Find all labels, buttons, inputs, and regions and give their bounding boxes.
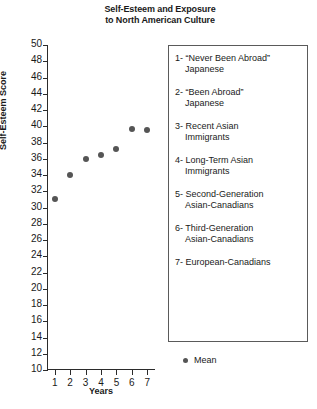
x-tick-mark xyxy=(101,370,102,375)
legend-key: Mean xyxy=(183,355,217,366)
y-tick-mark xyxy=(43,126,48,127)
legend-item: 4- Long-Term AsianImmigrants xyxy=(175,155,307,177)
y-tick-label: 30 xyxy=(31,201,42,213)
scatter-chart-figure: Self-Esteem and Exposure to North Americ… xyxy=(0,0,317,409)
y-tick-mark xyxy=(43,224,48,225)
y-tick-mark xyxy=(43,273,48,274)
y-tick-label: 38 xyxy=(31,136,42,148)
legend-item-line-2: Asian-Canadians xyxy=(175,234,307,245)
y-tick-mark xyxy=(43,78,48,79)
data-point xyxy=(113,146,119,152)
legend-item-line-2: Immigrants xyxy=(175,166,307,177)
y-tick-mark xyxy=(43,159,48,160)
legend-item: 7- European-Canadians xyxy=(175,257,307,268)
y-tick-label: 42 xyxy=(31,103,42,115)
legend-box: 1- “Never Been Abroad”Japanese2- “Been A… xyxy=(168,45,308,342)
y-tick-label: 48 xyxy=(31,54,42,66)
legend-item: 5- Second-GenerationAsian-Canadians xyxy=(175,189,307,211)
x-axis-label: Years xyxy=(47,386,155,396)
legend-item-line-1: 3- Recent Asian xyxy=(175,121,239,131)
x-tick-mark xyxy=(86,370,87,375)
y-tick-label: 36 xyxy=(31,152,42,164)
y-tick-label: 16 xyxy=(31,314,42,326)
legend-item-line-2: Asian-Canadians xyxy=(175,200,307,211)
plot-area: 5048464442403836343230282624222018161412… xyxy=(47,45,155,370)
legend-item-line-1: 6- Third-Generation xyxy=(175,223,253,233)
y-tick-mark xyxy=(43,354,48,355)
y-tick-label: 34 xyxy=(31,168,42,180)
x-tick-mark xyxy=(70,370,71,375)
y-axis-label: Self-Esteem Score xyxy=(0,30,8,150)
x-tick-mark xyxy=(147,370,148,375)
y-tick-label: 14 xyxy=(31,331,42,343)
y-tick-label: 18 xyxy=(31,298,42,310)
chart-title-line-2: to North American Culture xyxy=(60,15,260,26)
legend-item: 1- “Never Been Abroad”Japanese xyxy=(175,53,307,75)
y-tick-label: 40 xyxy=(31,119,42,131)
y-tick-label: 50 xyxy=(31,38,42,50)
x-tick-mark xyxy=(132,370,133,375)
legend-item-line-1: 1- “Never Been Abroad” xyxy=(175,53,270,63)
y-tick-label: 32 xyxy=(31,184,42,196)
y-tick-label: 10 xyxy=(31,363,42,375)
legend-item-line-1: 7- European-Canadians xyxy=(175,257,271,267)
y-tick-mark xyxy=(43,208,48,209)
legend-item-line-2: Japanese xyxy=(175,64,307,75)
data-point xyxy=(129,126,135,132)
y-tick-label: 12 xyxy=(31,347,42,359)
data-point xyxy=(67,172,73,178)
legend-item-line-2: Japanese xyxy=(175,98,307,109)
data-point xyxy=(52,196,58,202)
y-tick-label: 46 xyxy=(31,71,42,83)
mean-marker-icon xyxy=(183,358,188,363)
legend-item-line-1: 5- Second-Generation xyxy=(175,189,264,199)
y-tick-label: 44 xyxy=(31,87,42,99)
y-tick-label: 24 xyxy=(31,249,42,261)
data-point xyxy=(144,127,150,133)
y-tick-mark xyxy=(43,61,48,62)
y-tick-mark xyxy=(43,289,48,290)
y-tick-mark xyxy=(43,240,48,241)
y-tick-label: 28 xyxy=(31,217,42,229)
legend-item-line-2: Immigrants xyxy=(175,132,307,143)
legend-item-line-1: 2- “Been Abroad” xyxy=(175,87,244,97)
y-tick-mark xyxy=(43,370,48,371)
y-tick-mark xyxy=(43,143,48,144)
legend-item: 3- Recent AsianImmigrants xyxy=(175,121,307,143)
legend-item-line-1: 4- Long-Term Asian xyxy=(175,155,253,165)
legend-item: 2- “Been Abroad”Japanese xyxy=(175,87,307,109)
chart-title-line-1: Self-Esteem and Exposure xyxy=(60,4,260,15)
legend-item: 6- Third-GenerationAsian-Canadians xyxy=(175,223,307,245)
y-tick-mark xyxy=(43,321,48,322)
y-tick-mark xyxy=(43,256,48,257)
x-tick-mark xyxy=(116,370,117,375)
y-tick-mark xyxy=(43,305,48,306)
y-tick-mark xyxy=(43,94,48,95)
y-tick-mark xyxy=(43,191,48,192)
data-point xyxy=(83,156,89,162)
chart-title: Self-Esteem and Exposure to North Americ… xyxy=(60,4,260,26)
legend-key-label: Mean xyxy=(194,355,217,365)
data-point xyxy=(98,152,104,158)
y-tick-label: 22 xyxy=(31,266,42,278)
y-tick-mark xyxy=(43,45,48,46)
y-tick-mark xyxy=(43,175,48,176)
y-tick-mark xyxy=(43,338,48,339)
y-tick-label: 20 xyxy=(31,282,42,294)
y-tick-mark xyxy=(43,110,48,111)
y-tick-label: 26 xyxy=(31,233,42,245)
x-tick-mark xyxy=(55,370,56,375)
